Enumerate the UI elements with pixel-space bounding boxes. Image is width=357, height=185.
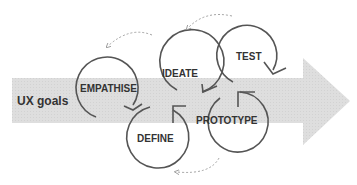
- stage-label-ideate: IDEATE: [162, 68, 198, 79]
- diagram-svg: UX goals EMPATHISE DEFINE IDEATE PROTOTY…: [0, 0, 357, 185]
- stage-label-prototype: PROTOTYPE: [196, 115, 258, 126]
- stage-label-test: TEST: [236, 51, 262, 62]
- stage-label-empathise: EMPATHISE: [80, 83, 137, 94]
- ux-goals-label: UX goals: [17, 94, 69, 108]
- stage-label-define: DEFINE: [137, 133, 174, 144]
- dashed-return-arrow-bottom: [177, 158, 219, 172]
- design-thinking-diagram: UX goals EMPATHISE DEFINE IDEATE PROTOTY…: [0, 0, 357, 185]
- dashed-return-arrow-top-right: [188, 15, 232, 29]
- dashed-return-arrow-top-left: [108, 32, 152, 46]
